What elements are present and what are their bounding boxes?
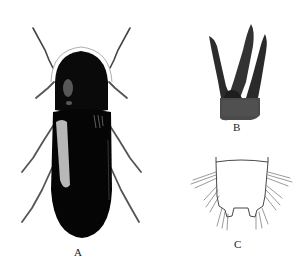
panel-label-c: C	[234, 239, 241, 250]
panel-c-segment-illustration	[0, 0, 306, 269]
figure-plate: A B C	[0, 0, 306, 269]
panel-label-b: B	[233, 122, 240, 133]
panel-label-a: A	[74, 247, 82, 258]
